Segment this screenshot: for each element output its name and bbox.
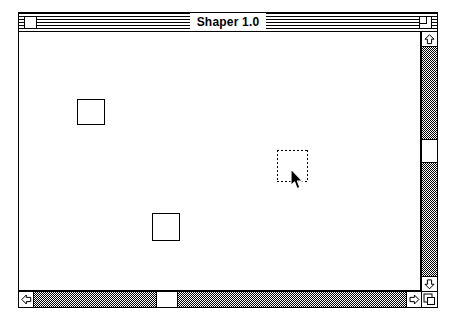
horizontal-scrollbar[interactable]: [19, 291, 421, 307]
horizontal-scrollbar-track[interactable]: [34, 292, 406, 307]
zoom-box-icon[interactable]: [419, 16, 432, 29]
application-window: Shaper 1.0: [18, 12, 438, 308]
grow-box-icon[interactable]: [421, 291, 437, 307]
scroll-left-arrow-icon[interactable]: [19, 292, 34, 307]
title-bar-stripes-right: [266, 13, 437, 31]
canvas-shape-square-1[interactable]: [77, 99, 105, 125]
title-bar-stripes-left: [19, 13, 190, 31]
drawing-canvas[interactable]: [19, 32, 421, 291]
close-box-icon[interactable]: [24, 16, 37, 29]
vertical-scrollbar-track[interactable]: [422, 47, 437, 276]
window-title: Shaper 1.0: [190, 13, 267, 31]
scroll-right-arrow-icon[interactable]: [406, 292, 421, 307]
vertical-scrollbar-thumb[interactable]: [422, 139, 437, 163]
title-bar[interactable]: Shaper 1.0: [19, 13, 437, 32]
scroll-down-arrow-icon[interactable]: [422, 276, 437, 291]
canvas-shape-square-2[interactable]: [152, 213, 180, 241]
vertical-scrollbar[interactable]: [421, 32, 437, 291]
arrow-cursor-icon: [290, 169, 304, 190]
horizontal-scrollbar-thumb[interactable]: [156, 292, 178, 307]
zoom-box-inner-square: [420, 17, 427, 24]
scroll-up-arrow-icon[interactable]: [422, 32, 437, 47]
